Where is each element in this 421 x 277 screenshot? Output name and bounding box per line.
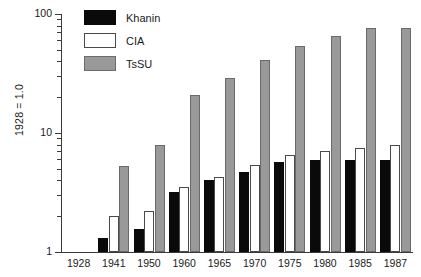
y-axis-tick-minor <box>57 97 61 98</box>
bar-tssu <box>295 46 305 252</box>
bar-khanin <box>134 229 144 252</box>
legend-label: Khanin <box>126 12 160 24</box>
bar-tssu <box>190 95 200 252</box>
y-axis-line <box>61 14 62 253</box>
bar-group <box>239 14 270 252</box>
bar-cia <box>390 145 400 252</box>
y-axis-tick-minor <box>57 19 61 20</box>
legend-item: Khanin <box>84 8 160 27</box>
bar-group <box>345 14 376 252</box>
bar-cia <box>285 155 295 252</box>
y-axis-label: 1928 = 1.0 <box>13 60 25 160</box>
y-axis-tick-minor <box>57 40 61 41</box>
y-axis-tick-minor <box>57 180 61 181</box>
bar-cia <box>109 216 119 252</box>
y-axis-tick-minor <box>57 61 61 62</box>
y-axis-tick-minor <box>57 145 61 146</box>
y-axis-tick-label: 1 <box>12 246 52 257</box>
legend-swatch-cia <box>84 33 116 48</box>
bar-group <box>204 14 235 252</box>
bar-cia <box>179 187 189 252</box>
y-axis-tick-minor <box>57 50 61 51</box>
bar-tssu <box>401 28 411 252</box>
bar-cia <box>144 211 154 252</box>
bar-cia <box>250 165 260 252</box>
y-axis-tick-minor <box>57 195 61 196</box>
bar-khanin <box>98 238 108 252</box>
y-axis-tick-minor <box>57 32 61 33</box>
y-axis-tick-major: 100 <box>55 14 61 15</box>
bar-group <box>310 14 341 252</box>
y-axis-tick-minor <box>57 76 61 77</box>
bar-group <box>380 14 411 252</box>
y-axis-tick-minor <box>57 138 61 139</box>
y-axis-tick-minor <box>57 169 61 170</box>
bar-khanin <box>239 172 249 252</box>
y-axis-tick-minor <box>57 216 61 217</box>
bar-cia <box>320 151 330 252</box>
y-axis-tick-label: 10 <box>12 127 52 138</box>
y-axis-tick-minor <box>57 26 61 27</box>
y-axis-tick-major: 10 <box>55 133 61 134</box>
bar-chart: 1928 = 1.0 100101 1928194119501960196519… <box>0 0 421 277</box>
bar-tssu <box>155 145 165 252</box>
bar-khanin <box>345 160 355 252</box>
y-axis-tick-label: 100 <box>12 8 52 19</box>
chart-legend: KhaninCIATsSU <box>84 8 160 77</box>
bar-group <box>169 14 200 252</box>
bar-cia <box>214 177 224 252</box>
bar-khanin <box>310 160 320 252</box>
legend-item: CIA <box>84 31 160 50</box>
x-axis-line <box>61 252 413 253</box>
legend-label: CIA <box>126 35 144 47</box>
bar-tssu <box>331 36 341 252</box>
bar-tssu <box>260 60 270 252</box>
bar-group <box>274 14 305 252</box>
y-axis-tick-major: 1 <box>55 252 61 253</box>
bar-khanin <box>204 180 214 252</box>
y-axis-tick-minor <box>57 151 61 152</box>
bar-tssu <box>225 78 235 252</box>
y-axis-tick-minor <box>57 159 61 160</box>
bar-khanin <box>169 192 179 252</box>
bar-tssu <box>119 166 129 252</box>
x-axis-tick-label: 1987 <box>372 257 418 269</box>
legend-item: TsSU <box>84 54 160 73</box>
bar-cia <box>355 148 365 252</box>
bar-tssu <box>366 28 376 252</box>
legend-label: TsSU <box>126 58 152 70</box>
bar-khanin <box>380 160 390 252</box>
bar-khanin <box>274 162 284 252</box>
legend-swatch-tssu <box>84 56 116 71</box>
legend-swatch-khanin <box>84 10 116 25</box>
